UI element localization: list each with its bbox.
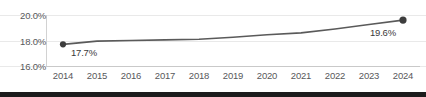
data-label-2024: 19.6% xyxy=(370,27,396,38)
x-axis-tick-2021: 2021 xyxy=(284,70,318,83)
x-axis-tick-2020: 2020 xyxy=(250,70,284,83)
data-point-marker-2014 xyxy=(60,41,66,47)
data-label-2014: 17.7% xyxy=(71,47,97,58)
x-axis-tick-labels: 2014201520162017201820192020202120222023… xyxy=(46,70,420,83)
x-axis-tick-2018: 2018 xyxy=(182,70,216,83)
x-axis-tick-2024: 2024 xyxy=(386,70,420,83)
x-axis-tick-2022: 2022 xyxy=(318,70,352,83)
x-axis-tick-2019: 2019 xyxy=(216,70,250,83)
x-axis-tick-2017: 2017 xyxy=(148,70,182,83)
data-point-marker-2024 xyxy=(399,17,406,24)
x-axis-tick-2016: 2016 xyxy=(114,70,148,83)
series-line xyxy=(63,20,403,44)
x-axis-tick-2023: 2023 xyxy=(352,70,386,83)
x-axis-tick-2015: 2015 xyxy=(80,70,114,83)
bottom-cropped-strip xyxy=(0,92,426,97)
line-chart: 20.0% 18.0% 16.0% 17.7% 19.6% 2014201520… xyxy=(0,0,426,97)
x-axis-tick-2014: 2014 xyxy=(46,70,80,83)
